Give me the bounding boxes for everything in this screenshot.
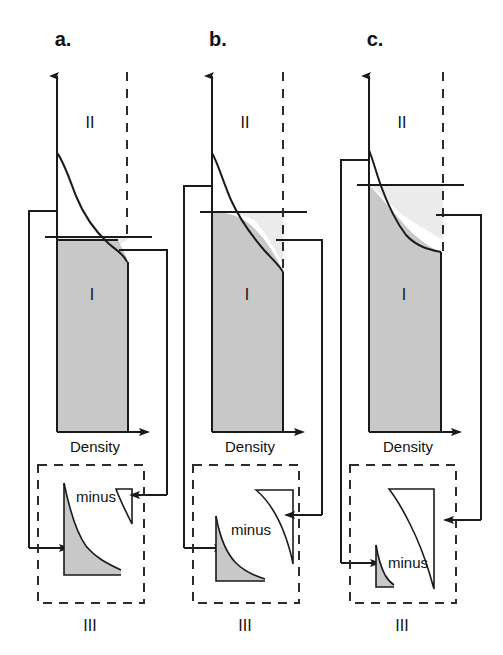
panel-a: a. Density II I: [29, 28, 167, 634]
panel-c: c. Density II I minus: [341, 28, 481, 634]
panel-c-left-connector: [341, 160, 369, 563]
panel-c-minus-label: minus: [388, 554, 428, 571]
panel-a-region-iii-box: [38, 465, 144, 603]
panel-c-region-iii-box: [350, 465, 456, 603]
panel-c-minus-shape: [389, 489, 434, 589]
panel-c-axis-label: Density: [383, 438, 434, 455]
density-profile-figure: a. Density II I: [0, 0, 503, 655]
panel-a-left-connector: [29, 211, 57, 548]
panel-a-region-i-fill: [57, 240, 128, 432]
panel-a-minus-label: minus: [76, 488, 116, 505]
panel-b-region-iii-label: III: [238, 617, 251, 634]
panel-c-region-ii-label: II: [398, 114, 407, 131]
panel-c-region-iii-label: III: [395, 617, 408, 634]
panel-c-region-i-label: I: [402, 286, 406, 303]
panel-c-right-connector: [436, 215, 481, 520]
panel-b-minus-label: minus: [231, 521, 271, 538]
panel-a-minus-shape: [116, 489, 132, 524]
panel-c-letter: c.: [367, 28, 384, 50]
figure-root: a. Density II I: [0, 0, 503, 655]
panel-b-region-i-label: I: [245, 286, 249, 303]
panel-b-letter: b.: [209, 28, 227, 50]
panel-b-axis-label: Density: [225, 438, 276, 455]
panel-a-region-ii-label: II: [86, 114, 95, 131]
panel-a-region-i-label: I: [90, 286, 94, 303]
panel-a-axis-label: Density: [70, 438, 121, 455]
panel-a-region-iii-label: III: [83, 617, 96, 634]
panel-a-letter: a.: [55, 28, 72, 50]
panel-b: b. Density II I minus: [184, 28, 322, 634]
panel-b-left-connector: [184, 186, 212, 548]
panel-b-region-ii-label: II: [241, 114, 250, 131]
